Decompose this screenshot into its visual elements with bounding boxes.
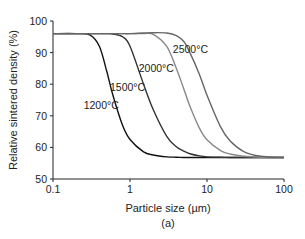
x-tick-label: 10 — [201, 183, 213, 195]
curves — [53, 33, 284, 158]
y-tick-label: 100 — [29, 15, 47, 27]
y-tick-label: 80 — [35, 78, 47, 90]
x-axis-title: Particle size (µm) — [125, 202, 210, 214]
x-tick-label: 1 — [127, 183, 133, 195]
series-label-2000: 2000°C — [139, 62, 175, 74]
x-tick-label: 100 — [275, 183, 293, 195]
figure-caption: (a) — [161, 217, 174, 229]
series-label-1500: 1500°C — [110, 81, 146, 93]
x-tick-label: 0.1 — [46, 183, 61, 195]
y-tick-label: 70 — [35, 110, 47, 122]
series-label-1200: 1200°C — [84, 99, 120, 111]
axes: 50607080901000.1110100 — [29, 15, 292, 195]
y-tick-label: 60 — [35, 141, 47, 153]
y-tick-label: 90 — [35, 47, 47, 59]
sintered-density-chart: 50607080901000.1110100 1200°C1500°C2000°… — [0, 0, 305, 239]
y-axis-title: Relative sintered density (%) — [7, 30, 19, 170]
series-line-1500 — [53, 34, 284, 158]
series-label-2500: 2500°C — [173, 43, 209, 55]
